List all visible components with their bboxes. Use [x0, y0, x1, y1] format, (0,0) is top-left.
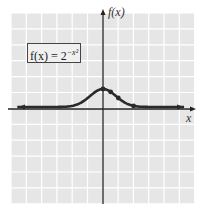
y-axis-label: f(x)	[108, 5, 125, 20]
marked-point	[108, 89, 113, 94]
y-axis-arrow-icon	[101, 9, 106, 15]
marked-point	[101, 87, 106, 92]
marked-point	[131, 103, 136, 108]
formula-label: f(x) = 2−x²	[27, 43, 81, 63]
formula-exponent: −x²	[67, 48, 78, 57]
graph-canvas	[0, 0, 200, 211]
marked-point	[116, 96, 121, 101]
x-axis-label: x	[186, 111, 191, 126]
formula-base: f(x) = 2	[30, 49, 67, 63]
